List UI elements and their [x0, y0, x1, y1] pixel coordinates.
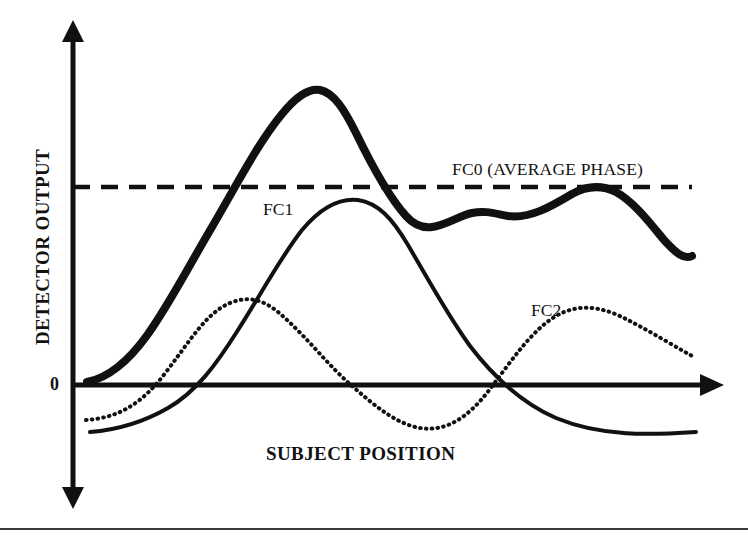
figure-detector-output-vs-subject-position: DETECTOR OUTPUT SUBJECT POSITION 0 FC0 (…	[0, 0, 748, 539]
x-axis	[73, 374, 724, 396]
x-axis-label: SUBJECT POSITION	[266, 443, 455, 465]
fc2-curve-label: FC2	[531, 300, 561, 321]
series-fc2	[86, 299, 694, 428]
y-axis	[62, 20, 84, 509]
y-axis-zero-tick-label: 0	[50, 374, 59, 395]
series-fc0	[87, 90, 692, 382]
fc1-curve-label: FC1	[263, 199, 293, 220]
figure-bottom-rule	[0, 528, 748, 530]
y-axis-label: DETECTOR OUTPUT	[32, 142, 54, 352]
fc0-curve-label: FC0 (AVERAGE PHASE)	[452, 159, 643, 180]
series-fc1	[90, 200, 696, 434]
